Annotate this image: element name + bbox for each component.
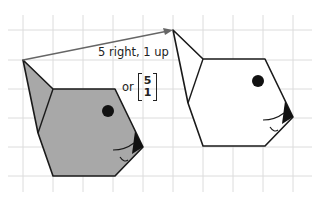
or-label: or: [122, 80, 134, 94]
vector-values: 5 1: [142, 75, 154, 99]
right-bracket: [153, 73, 157, 101]
column-vector: or 5 1: [122, 73, 157, 101]
translation-diagram: [0, 0, 317, 198]
arrow-head-icon: [163, 28, 173, 35]
image-eye: [252, 75, 264, 87]
vector-bottom: 1: [144, 87, 152, 99]
object-eye: [102, 105, 114, 117]
translation-description: 5 right, 1 up: [98, 45, 169, 59]
